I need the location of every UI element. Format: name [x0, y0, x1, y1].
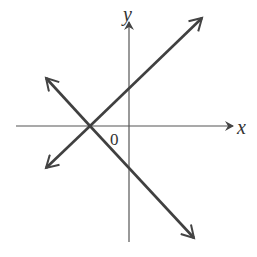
origin-label: 0: [110, 131, 119, 148]
decreasing-line: [46, 78, 194, 238]
x-axis-label: x: [237, 117, 246, 137]
coordinate-plane: [0, 0, 257, 257]
y-axis-label: y: [123, 4, 132, 24]
increasing-line: [46, 18, 202, 168]
